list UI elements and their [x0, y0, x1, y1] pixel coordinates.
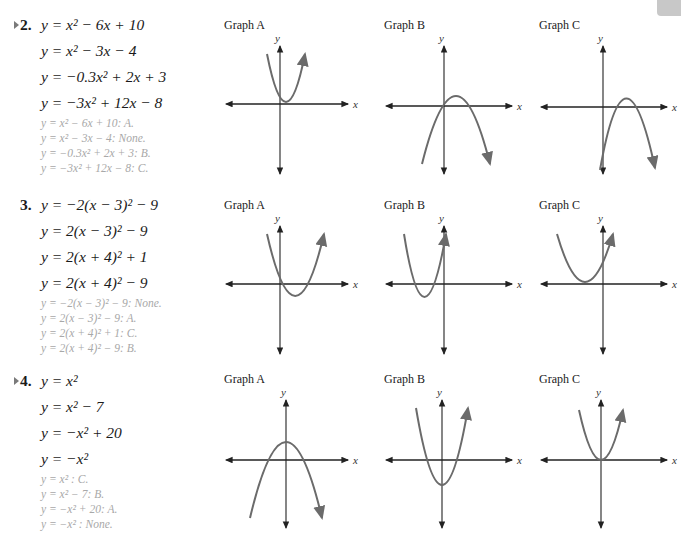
- parabola-plot: y x: [537, 198, 681, 368]
- answer-line: y = 2(x − 3)² − 9: A.: [20, 311, 220, 326]
- equation-row: y = 2(x + 4)² − 9: [20, 270, 220, 296]
- problem-number: 2.: [20, 12, 32, 38]
- answer-line: y = x² − 6x + 10: A.: [20, 116, 220, 131]
- answer-line: y = 2(x + 4)² + 1: C.: [20, 326, 220, 341]
- svg-text:y: y: [595, 386, 601, 398]
- graph-a: Graph A y x: [222, 372, 372, 538]
- equation-row: y = x² − 7: [20, 394, 220, 420]
- triangle-marker-icon: [14, 21, 19, 29]
- svg-text:y: y: [280, 386, 286, 398]
- graph-c: Graph C y x: [537, 18, 681, 188]
- parabola-plot: y x: [222, 198, 372, 368]
- equation-row: 3. y = −2(x − 3)² − 9: [20, 192, 220, 218]
- equation-row: 2. y = x² − 6x + 10: [20, 12, 220, 38]
- equation: y = −x² + 20: [41, 420, 122, 446]
- answer-line: y = −x² : None.: [20, 517, 220, 532]
- svg-text:x: x: [352, 454, 358, 466]
- answer-line: y = 2(x + 4)² − 9: B.: [20, 341, 220, 356]
- equation-list: 3. y = −2(x − 3)² − 9 y = 2(x − 3)² − 9 …: [20, 192, 220, 356]
- equation: y = −x²: [41, 446, 88, 472]
- parabola-plot: y x: [222, 372, 372, 538]
- page-corner-tab: [657, 0, 681, 16]
- parabola-plot: y x: [537, 372, 681, 538]
- answer-line: y = −3x² + 12x − 8: C.: [20, 161, 220, 176]
- equation-row: y = 2(x + 4)² + 1: [20, 244, 220, 270]
- answer-line: y = −0.3x² + 2x + 3: B.: [20, 146, 220, 161]
- equation-row: y = x² − 3x − 4: [20, 38, 220, 64]
- answer-line: y = x² : C.: [20, 472, 220, 487]
- svg-text:x: x: [352, 98, 358, 110]
- parabola-plot: y x: [382, 372, 532, 538]
- svg-text:x: x: [671, 454, 677, 466]
- equation: y = 2(x + 4)² − 9: [41, 270, 148, 296]
- graph-c: Graph C y x: [537, 198, 681, 368]
- answer-line: y = x² − 3x − 4: None.: [20, 131, 220, 146]
- triangle-marker-icon: [14, 377, 19, 385]
- svg-text:y: y: [274, 212, 280, 224]
- svg-text:y: y: [597, 32, 603, 44]
- equation-row: y = −3x² + 12x − 8: [20, 90, 220, 116]
- equation-row: y = −x² + 20: [20, 420, 220, 446]
- parabola-plot: y x: [382, 198, 532, 368]
- equation: y = −3x² + 12x − 8: [41, 90, 162, 116]
- parabola-plot: y x: [537, 18, 681, 188]
- equation-row: 4. y = x²: [20, 368, 220, 394]
- svg-text:x: x: [516, 100, 522, 112]
- parabola-plot: y x: [222, 18, 372, 188]
- graph-a: Graph A y x: [222, 198, 372, 368]
- equation: y = 2(x + 4)² + 1: [41, 244, 148, 270]
- problem-number: 4.: [20, 368, 32, 394]
- equation: y = −0.3x² + 2x + 3: [41, 64, 166, 90]
- svg-text:x: x: [516, 454, 522, 466]
- svg-text:y: y: [438, 32, 444, 44]
- equation: y = x² − 6x + 10: [41, 12, 144, 38]
- svg-text:y: y: [274, 32, 280, 44]
- answer-line: y = −2(x − 3)² − 9: None.: [20, 296, 220, 311]
- equation-row: y = 2(x − 3)² − 9: [20, 218, 220, 244]
- equation: y = −2(x − 3)² − 9: [41, 192, 158, 218]
- svg-text:x: x: [671, 101, 677, 113]
- svg-text:x: x: [516, 278, 522, 290]
- svg-text:y: y: [436, 386, 442, 398]
- svg-text:y: y: [438, 212, 444, 224]
- answer-line: y = x² − 7: B.: [20, 487, 220, 502]
- answer-line: y = −x² + 20: A.: [20, 502, 220, 517]
- svg-text:x: x: [352, 278, 358, 290]
- graph-b: Graph B y x: [382, 372, 532, 538]
- graph-b: Graph B y x: [382, 198, 532, 368]
- parabola-plot: y x: [382, 18, 532, 188]
- equation: y = 2(x − 3)² − 9: [41, 218, 148, 244]
- equation-row: y = −0.3x² + 2x + 3: [20, 64, 220, 90]
- svg-text:y: y: [597, 212, 603, 224]
- equation-list: 2. y = x² − 6x + 10 y = x² − 3x − 4 y = …: [20, 12, 220, 176]
- graph-c: Graph C y x: [537, 372, 681, 538]
- equation: y = x²: [41, 368, 78, 394]
- equation: y = x² − 7: [41, 394, 104, 420]
- graph-a: Graph A y x: [222, 18, 372, 188]
- equation: y = x² − 3x − 4: [41, 38, 136, 64]
- equation-row: y = −x²: [20, 446, 220, 472]
- svg-text:x: x: [671, 278, 677, 290]
- equation-list: 4. y = x² y = x² − 7 y = −x² + 20 y = −x…: [20, 368, 220, 532]
- problem-number: 3.: [20, 192, 32, 218]
- graph-b: Graph B y x: [382, 18, 532, 188]
